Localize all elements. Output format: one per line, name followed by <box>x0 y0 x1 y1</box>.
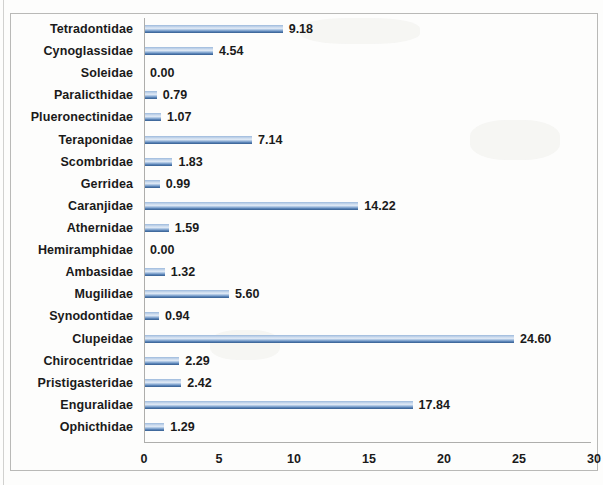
value-axis-tick: 30 <box>587 452 601 466</box>
bar[interactable] <box>145 379 181 387</box>
category-label: Hemiramphidae <box>5 243 133 257</box>
bar-value-label: 1.32 <box>171 265 195 279</box>
bar-row: Synodontidae0.94 <box>144 305 594 327</box>
bar-value-label: 1.29 <box>170 420 194 434</box>
bar-value-label: 1.07 <box>167 110 191 124</box>
bar[interactable] <box>145 113 161 121</box>
category-label: Gerridea <box>5 177 133 191</box>
bar-series-area: Tetradontidae9.18Cynoglassidae4.54Soleid… <box>144 18 594 438</box>
value-axis-tick: 20 <box>437 452 451 466</box>
category-label: Plueronectinidae <box>5 110 133 124</box>
bar-value-label: 2.42 <box>187 376 211 390</box>
bar-value-label: 0.00 <box>150 243 174 257</box>
bar-row: Cynoglassidae4.54 <box>144 40 594 62</box>
bar[interactable] <box>145 158 172 166</box>
bar-value-label: 1.59 <box>175 221 199 235</box>
bar-value-label: 0.79 <box>163 88 187 102</box>
value-axis-line <box>144 442 591 443</box>
category-label: Caranjidae <box>5 199 133 213</box>
bar[interactable] <box>145 47 213 55</box>
bar[interactable] <box>145 335 514 343</box>
category-label: Enguralidae <box>5 398 133 412</box>
category-label: Clupeidae <box>5 332 133 346</box>
category-label: Cynoglassidae <box>5 44 133 58</box>
bar[interactable] <box>145 180 160 188</box>
bar-row: Clupeidae24.60 <box>144 327 594 349</box>
bar-value-label: 7.14 <box>258 133 282 147</box>
bar-row: Paralicthidae0.79 <box>144 84 594 106</box>
category-label: Athernidae <box>5 221 133 235</box>
bar[interactable] <box>145 25 283 33</box>
bar-row: Ophicthidae1.29 <box>144 416 594 438</box>
bar-value-label: 14.22 <box>364 199 395 213</box>
value-axis-tick: 5 <box>216 452 223 466</box>
bar-value-label: 5.60 <box>235 287 259 301</box>
category-label: Synodontidae <box>5 309 133 323</box>
bar-value-label: 2.29 <box>185 354 209 368</box>
value-axis-tick: 10 <box>287 452 301 466</box>
bar[interactable] <box>145 224 169 232</box>
bar-value-label: 1.83 <box>178 155 202 169</box>
bar-value-label: 9.18 <box>289 22 313 36</box>
bar-row: Scombridae1.83 <box>144 151 594 173</box>
bar-row: Mugilidae5.60 <box>144 283 594 305</box>
value-axis-tick: 15 <box>362 452 376 466</box>
bar-row: Ambasidae1.32 <box>144 261 594 283</box>
page-edge-rule <box>3 0 4 485</box>
bar-row: Chirocentridae2.29 <box>144 350 594 372</box>
value-axis-tick: 0 <box>141 452 148 466</box>
bar-row: Caranjidae14.22 <box>144 195 594 217</box>
category-label: Soleidae <box>5 66 133 80</box>
category-label: Tetradontidae <box>5 22 133 36</box>
bar-row: Gerridea0.99 <box>144 173 594 195</box>
bar-row: Plueronectinidae1.07 <box>144 106 594 128</box>
bar-row: Tetradontidae9.18 <box>144 18 594 40</box>
bar-value-label: 0.94 <box>165 309 189 323</box>
bar-row: Teraponidae7.14 <box>144 129 594 151</box>
category-label: Ambasidae <box>5 265 133 279</box>
bar-row: Hemiramphidae0.00 <box>144 239 594 261</box>
value-axis-tick: 25 <box>512 452 526 466</box>
chart-screenshot: Tetradontidae9.18Cynoglassidae4.54Soleid… <box>0 0 603 485</box>
bar-value-label: 4.54 <box>219 44 243 58</box>
category-label: Scombridae <box>5 155 133 169</box>
category-label: Ophicthidae <box>5 420 133 434</box>
category-label: Mugilidae <box>5 287 133 301</box>
bar[interactable] <box>145 423 164 431</box>
bar[interactable] <box>145 268 165 276</box>
bar[interactable] <box>145 312 159 320</box>
bar[interactable] <box>145 202 358 210</box>
bar-row: Soleidae0.00 <box>144 62 594 84</box>
bar-value-label: 0.99 <box>166 177 190 191</box>
bar-row: Athernidae1.59 <box>144 217 594 239</box>
bar[interactable] <box>145 357 179 365</box>
bar[interactable] <box>145 290 229 298</box>
bar-row: Enguralidae17.84 <box>144 394 594 416</box>
value-axis-tick-labels: 051015202530 <box>0 452 603 474</box>
category-label: Pristigasteridae <box>5 376 133 390</box>
category-label: Chirocentridae <box>5 354 133 368</box>
bar-value-label: 0.00 <box>150 66 174 80</box>
bar[interactable] <box>145 136 252 144</box>
bar-row: Pristigasteridae2.42 <box>144 372 594 394</box>
bar-value-label: 17.84 <box>419 398 450 412</box>
bar[interactable] <box>145 91 157 99</box>
bar[interactable] <box>145 401 413 409</box>
category-label: Paralicthidae <box>5 88 133 102</box>
category-label: Teraponidae <box>5 133 133 147</box>
bar-value-label: 24.60 <box>520 332 551 346</box>
